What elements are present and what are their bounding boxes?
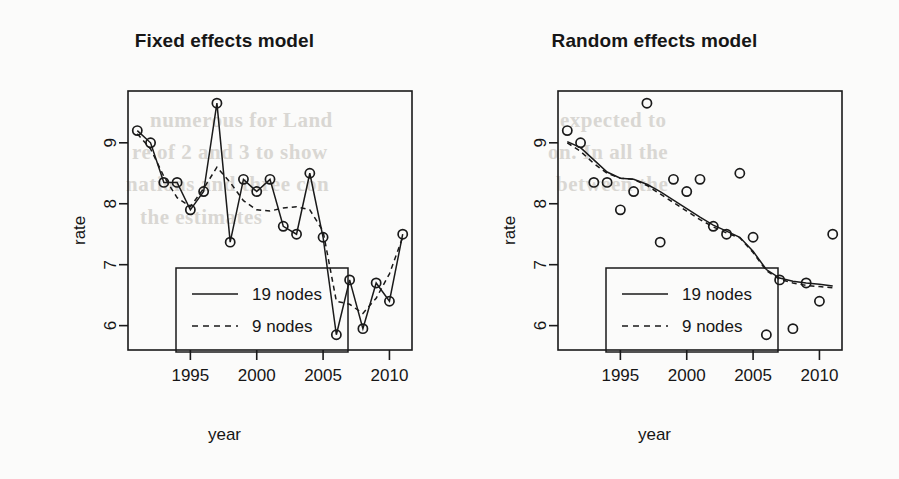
data-point-marker <box>629 187 638 196</box>
legend-label: 19 nodes <box>682 285 752 304</box>
figure-page: numerous for Landre of 2 and 3 to showna… <box>0 0 899 479</box>
data-point-marker <box>656 238 665 247</box>
legend-box <box>176 268 348 352</box>
data-point-marker <box>735 169 744 178</box>
data-point-marker <box>576 138 585 147</box>
y-tick-label: 9 <box>102 138 121 147</box>
y-tick-label: 7 <box>102 260 121 269</box>
legend-box <box>606 268 778 352</box>
x-tick-label: 2000 <box>238 366 276 385</box>
y-tick-label: 9 <box>532 138 551 147</box>
data-point-marker <box>748 233 757 242</box>
data-point-marker <box>775 275 784 284</box>
y-tick-label: 6 <box>532 321 551 330</box>
series-line-dashed <box>567 143 832 288</box>
plot-area-fixed: 6789199520002005201019 nodes9 nodes <box>0 0 449 479</box>
data-point-marker <box>616 205 625 214</box>
x-tick-label: 2005 <box>304 366 342 385</box>
legend-label: 19 nodes <box>252 285 322 304</box>
x-tick-label: 2010 <box>801 366 839 385</box>
x-tick-label: 1995 <box>171 366 209 385</box>
data-point-marker <box>589 178 598 187</box>
x-tick-label: 2010 <box>371 366 409 385</box>
x-tick-label: 1995 <box>601 366 639 385</box>
plot-panel-fixed: Fixed effects modelrateyear6789199520002… <box>0 0 449 479</box>
y-tick-label: 8 <box>532 199 551 208</box>
data-point-marker <box>642 99 651 108</box>
data-point-marker <box>682 187 691 196</box>
data-point-marker <box>669 175 678 184</box>
data-point-marker <box>788 324 797 333</box>
x-tick-label: 2005 <box>734 366 772 385</box>
y-tick-label: 6 <box>102 321 121 330</box>
data-point-marker <box>695 175 704 184</box>
data-point-marker <box>828 230 837 239</box>
data-point-marker <box>815 297 824 306</box>
x-tick-label: 2000 <box>668 366 706 385</box>
legend-label: 9 nodes <box>682 317 743 336</box>
y-tick-label: 7 <box>532 260 551 269</box>
plot-panel-random: Random effects modelrateyear678919952000… <box>430 0 879 479</box>
data-point-marker <box>762 330 771 339</box>
legend-label: 9 nodes <box>252 317 313 336</box>
data-point-marker <box>603 178 612 187</box>
plot-frame <box>128 91 412 350</box>
plot-frame <box>558 91 842 350</box>
data-point-marker <box>563 126 572 135</box>
series-line-solid <box>567 142 832 286</box>
plot-area-random: 6789199520002005201019 nodes9 nodes <box>430 0 879 479</box>
y-tick-label: 8 <box>102 199 121 208</box>
